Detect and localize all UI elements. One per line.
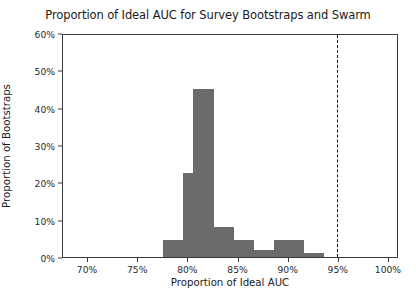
x-tick-mark: [187, 258, 188, 262]
y-tick-label: 30%: [35, 141, 55, 152]
y-tick-label: 10%: [35, 215, 55, 226]
x-tick-mark: [87, 258, 88, 262]
histogram-bar: [304, 253, 315, 257]
histogram-bar: [213, 227, 224, 257]
x-tick-label: 75%: [127, 264, 147, 275]
x-tick-label: 100%: [375, 264, 401, 275]
swarm-threshold-line2: p-value < .001: [224, 34, 233, 49]
y-tick-mark: [58, 220, 62, 221]
x-tick-label: 95%: [328, 264, 348, 275]
y-tick-mark: [58, 258, 62, 259]
x-tick-mark: [288, 258, 289, 262]
x-tick-mark: [338, 258, 339, 262]
histogram-bar: [294, 240, 305, 257]
chart-title: Proportion of Ideal AUC for Survey Boots…: [0, 8, 416, 22]
x-tick-label: 90%: [277, 264, 297, 275]
plot-area: Swarm Rankingsp-value < .001: [62, 34, 398, 258]
y-tick-mark: [58, 183, 62, 184]
swarm-threshold-label: Swarm Rankingsp-value < .001: [215, 34, 233, 49]
x-tick-label: 70%: [77, 264, 97, 275]
x-tick-label: 85%: [227, 264, 247, 275]
y-tick-mark: [58, 34, 62, 35]
histogram-bar: [264, 250, 275, 257]
y-tick-label: 60%: [35, 29, 55, 40]
y-tick-mark: [58, 146, 62, 147]
x-tick-label: 80%: [177, 264, 197, 275]
x-tick-mark: [137, 258, 138, 262]
swarm-threshold-line1: Swarm Rankings: [215, 34, 224, 49]
histogram-bar: [314, 253, 325, 257]
chart-figure: Proportion of Ideal AUC for Survey Boots…: [0, 0, 416, 299]
swarm-threshold-line: [337, 35, 338, 257]
y-tick-mark: [58, 71, 62, 72]
y-tick-label: 20%: [35, 178, 55, 189]
histogram-bar: [193, 89, 204, 257]
x-tick-mark: [388, 258, 389, 262]
histogram-bar: [223, 227, 234, 257]
x-axis-label: Proportion of Ideal AUC: [62, 277, 398, 288]
y-tick-label: 0%: [40, 253, 55, 264]
y-tick-label: 40%: [35, 103, 55, 114]
histogram-bar: [163, 240, 174, 257]
histogram-bar: [234, 240, 245, 257]
histogram-bar: [254, 250, 265, 257]
y-tick-mark: [58, 108, 62, 109]
histogram-bar: [203, 89, 214, 257]
histogram-bar: [244, 240, 255, 257]
x-tick-mark: [238, 258, 239, 262]
y-axis-label: Proportion of Bootstraps: [1, 84, 12, 208]
histogram-bar: [274, 240, 285, 257]
histogram-bar: [183, 173, 194, 257]
y-tick-label: 50%: [35, 66, 55, 77]
